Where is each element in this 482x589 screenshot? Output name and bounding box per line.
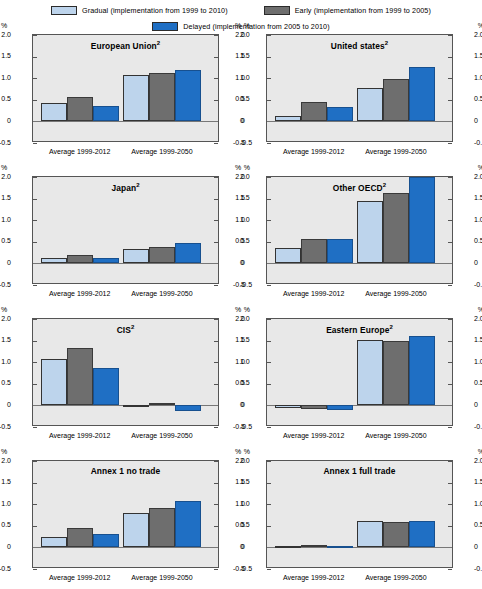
y-tickmark-right: [448, 526, 452, 527]
y-tickmark-left: [33, 78, 37, 79]
y-tickmark-left: [33, 143, 37, 144]
legend-item-gradual: Gradual (implementation from 1999 to 201…: [51, 6, 228, 15]
y-tick-label: 0: [241, 543, 245, 550]
y-tick-label: 0: [7, 401, 11, 408]
y-tickmark-left: [33, 242, 37, 243]
x-axis-label-group1: Average 1999-2012: [274, 432, 354, 439]
bar-gradual-group1: [275, 405, 301, 407]
plot-inner: [267, 461, 452, 567]
y-tickmark-left: [33, 504, 37, 505]
bar-gradual-group1: [275, 116, 301, 122]
y-tickmark-right: [448, 319, 452, 320]
bar-gradual-group1: [275, 248, 301, 263]
y-tick-label: 0.5: [235, 95, 245, 102]
x-axis-label-group2: Average 1999-2050: [356, 290, 436, 297]
y-tickmark-right: [448, 242, 452, 243]
y-tickmark-right: [448, 35, 452, 36]
panel-title: Other OECD2: [266, 182, 453, 193]
x-axis-label-group2: Average 1999-2050: [122, 432, 202, 439]
y-tickmark-right: [448, 427, 452, 428]
x-axis-labels: Average 1999-2012Average 1999-2050: [266, 290, 453, 302]
y-tickmark-right: [214, 100, 218, 101]
y-tickmark-left: [33, 569, 37, 570]
bar-early-group1: [67, 97, 93, 122]
bar-delayed-group1: [327, 546, 353, 548]
y-tick-label: -0.5: [474, 423, 482, 430]
x-axis-label-group2: Average 1999-2050: [122, 574, 202, 581]
legend-swatch-delayed: [152, 22, 178, 31]
bar-early-group1: [301, 545, 327, 548]
y-tick-label: 1.0: [1, 216, 11, 223]
y-axis-unit-right: %: [244, 306, 250, 313]
panel-eastern-europe: %%2.01.51.00.50-0.52.01.51.00.50-0.5East…: [248, 316, 471, 458]
panel-annex-1-no-trade: %%2.01.51.00.50-0.52.01.51.00.50-0.5Anne…: [14, 458, 237, 589]
x-axis-labels: Average 1999-2012Average 1999-2050: [266, 148, 453, 160]
y-tickmark-left: [267, 504, 271, 505]
y-tickmark-left: [33, 100, 37, 101]
y-tick-label: 0.5: [235, 237, 245, 244]
y-tickmark-left: [267, 285, 271, 286]
y-tickmark-right: [214, 220, 218, 221]
y-axis-unit-right: %: [244, 164, 250, 171]
y-tick-label: 1.0: [474, 358, 482, 365]
panel-annex-1-full-trade: %%2.01.51.00.50-0.52.01.51.00.50-0.5Anne…: [248, 458, 471, 589]
y-tickmark-left: [267, 461, 271, 462]
bar-gradual-group2: [123, 249, 149, 263]
bar-gradual-group1: [41, 359, 67, 405]
y-tick-label: 0: [241, 259, 245, 266]
y-tickmark-right: [214, 526, 218, 527]
y-tick-label: 0: [7, 117, 11, 124]
bar-delayed-group1: [93, 258, 119, 263]
y-axis-unit-left: %: [235, 22, 241, 29]
legend-label-delayed: Delayed (implementation from 2005 to 201…: [183, 22, 329, 31]
x-axis-label-group2: Average 1999-2050: [356, 432, 436, 439]
bar-early-group2: [149, 508, 175, 547]
bar-delayed-group1: [327, 107, 353, 121]
y-tickmark-left: [267, 143, 271, 144]
x-axis-labels: Average 1999-2012Average 1999-2050: [32, 290, 219, 302]
y-tick-label: 0: [474, 117, 478, 124]
y-tickmark-left: [267, 569, 271, 570]
y-tickmark-right: [214, 461, 218, 462]
plot-inner: [267, 319, 452, 425]
bar-delayed-group1: [93, 106, 119, 121]
y-tick-label: 1.5: [235, 194, 245, 201]
panel-japan: %%2.01.51.00.50-0.52.01.51.00.50-0.5Japa…: [14, 174, 237, 316]
y-axis-unit-left: %: [1, 164, 7, 171]
y-tick-label: 1.0: [235, 358, 245, 365]
x-axis-label-group1: Average 1999-2012: [40, 148, 120, 155]
y-tick-label: 2.0: [235, 457, 245, 464]
y-axis-unit-right: %: [478, 306, 482, 313]
bar-delayed-group2: [409, 521, 435, 547]
plot-inner: [33, 177, 218, 283]
chart-figure: Gradual (implementation from 1999 to 201…: [0, 0, 482, 589]
zero-baseline: [33, 547, 218, 548]
y-tickmark-left: [33, 384, 37, 385]
bar-gradual-group1: [41, 537, 67, 548]
y-tickmark-left: [33, 461, 37, 462]
bar-delayed-group2: [175, 243, 201, 263]
legend-label-early: Early (implementation from 1999 to 2005): [295, 6, 431, 15]
y-tickmark-left: [267, 35, 271, 36]
y-tick-label: -0.5: [474, 565, 482, 572]
panel-united-states: %%2.01.51.00.50-0.52.01.51.00.50-0.5Unit…: [248, 32, 471, 174]
y-tick-label: -0.5: [233, 423, 245, 430]
y-tickmark-left: [33, 319, 37, 320]
panel-title: Annex 1 full trade: [266, 466, 453, 476]
y-tickmark-right: [214, 427, 218, 428]
y-tickmark-right: [214, 143, 218, 144]
y-tickmark-right: [448, 100, 452, 101]
y-axis-right: 2.01.51.00.50-0.5: [471, 32, 482, 140]
y-tick-label: 0: [474, 259, 478, 266]
zero-baseline: [33, 121, 218, 122]
panel-title-footnote-marker: 2: [136, 182, 139, 188]
y-tick-label: 0: [474, 543, 478, 550]
x-axis-labels: Average 1999-2012Average 1999-2050: [32, 148, 219, 160]
y-axis-left: 2.01.51.00.50-0.5: [230, 458, 248, 566]
y-axis-unit-left: %: [235, 306, 241, 313]
y-tick-label: 1.5: [235, 52, 245, 59]
y-axis-right: 2.01.51.00.50-0.5: [471, 174, 482, 282]
y-tick-label: -0.5: [0, 423, 11, 430]
y-tickmark-right: [448, 461, 452, 462]
y-tickmark-left: [33, 362, 37, 363]
